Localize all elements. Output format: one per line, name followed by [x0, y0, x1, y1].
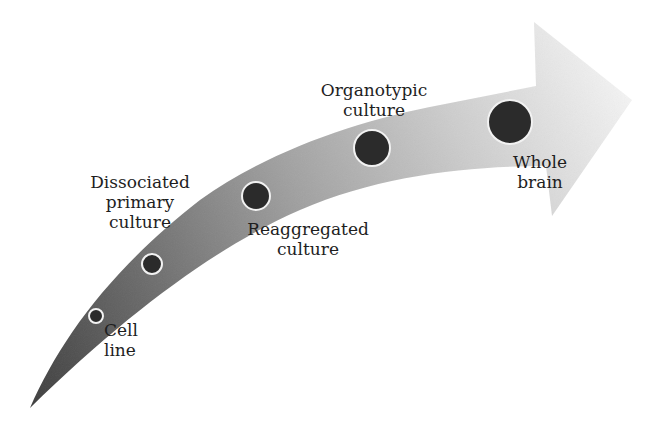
node-organotypic-culture: [354, 130, 390, 166]
label-whole-brain: Whole brain: [510, 152, 570, 192]
label-line: culture: [84, 212, 196, 232]
label-organotypic-culture: Organotypic culture: [318, 80, 430, 120]
label-line: Whole: [510, 152, 570, 172]
label-dissociated-primary-culture: Dissociated primary culture: [84, 172, 196, 232]
label-reaggregated-culture: Reaggregated culture: [246, 219, 370, 259]
label-line: Organotypic: [318, 80, 430, 100]
label-line: brain: [510, 172, 570, 192]
node-whole-brain: [488, 100, 532, 144]
label-line: line: [104, 340, 138, 360]
node-cell-line: [89, 309, 103, 323]
label-line: culture: [318, 100, 430, 120]
label-line: Reaggregated: [246, 219, 370, 239]
diagram-canvas: Cell line Dissociated primary culture Re…: [0, 0, 658, 425]
node-dissociated-primary-culture: [142, 254, 162, 274]
node-reaggregated-culture: [242, 182, 270, 210]
label-cell-line: Cell line: [104, 320, 138, 360]
label-line: Cell: [104, 320, 138, 340]
label-line: primary: [84, 192, 196, 212]
label-line: Dissociated: [84, 172, 196, 192]
label-line: culture: [246, 239, 370, 259]
